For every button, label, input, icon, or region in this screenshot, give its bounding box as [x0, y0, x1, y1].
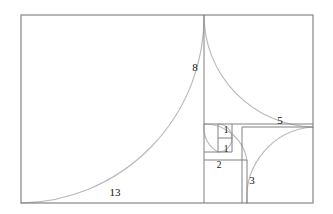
fibonacci-spiral-figure: 13 8 5 3 2 1 1	[0, 0, 333, 214]
label-3: 3	[249, 174, 255, 186]
label-8: 8	[192, 61, 198, 73]
label-2: 2	[217, 160, 222, 170]
fibonacci-diagram-svg: 13 8 5 3 2 1 1	[0, 0, 333, 214]
arc-2	[204, 124, 218, 152]
label-5: 5	[277, 114, 283, 126]
fibonacci-spiral-path-group	[21, 15, 313, 203]
arc-13	[21, 15, 204, 203]
label-1-lower: 1	[224, 144, 229, 154]
arc-8	[204, 15, 313, 127]
square-subdivision-lines	[204, 15, 313, 203]
outer-golden-rectangle	[21, 15, 313, 203]
label-1-upper: 1	[224, 125, 229, 135]
fibonacci-number-labels: 13 8 5 3 2 1 1	[110, 61, 284, 198]
label-13: 13	[110, 186, 122, 198]
arc-5	[247, 127, 313, 203]
